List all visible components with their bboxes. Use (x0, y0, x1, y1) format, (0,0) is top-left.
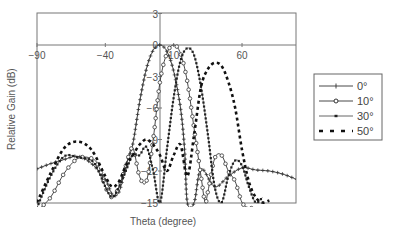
series-line (37, 45, 297, 208)
square-marker-icon (335, 115, 338, 117)
series-3 (37, 63, 269, 203)
x-tick-label: −90 (28, 50, 45, 61)
circle-marker-icon (334, 99, 338, 103)
y-axis-title: Relative Gain (dB) (6, 68, 17, 150)
y-tick-label: −3 (147, 72, 159, 83)
legend: 0°10°30°50° (314, 74, 382, 140)
series-line (37, 63, 269, 203)
legend-label: 30° (357, 110, 374, 122)
legend-label: 50° (357, 125, 374, 137)
series-0 (35, 43, 298, 210)
series-layer (35, 43, 298, 213)
radiation-pattern-chart: −90−40106030−3−6−9−12−15 Theta (degree) … (0, 0, 396, 239)
legend-label: 10° (357, 95, 374, 107)
legend-label: 0° (357, 80, 368, 92)
axes: −90−40106030−3−6−9−12−15 (28, 9, 296, 209)
x-tick-label: −40 (97, 50, 114, 61)
y-tick-label: −15 (141, 198, 158, 209)
plot-frame (37, 13, 296, 203)
y-tick-label: 3 (152, 9, 158, 20)
x-axis-title: Theta (degree) (130, 216, 196, 227)
x-tick-label: 60 (236, 50, 248, 61)
